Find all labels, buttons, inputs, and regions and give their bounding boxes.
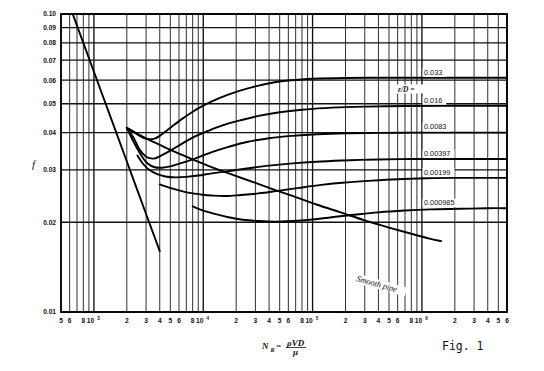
svg-text:10: 10 (305, 317, 313, 324)
curve-laminar (61, 0, 160, 251)
x-tick-exponent: 6 (425, 316, 428, 321)
x-tick-label: 2 (125, 317, 129, 324)
x-tick-label: 104 (196, 316, 209, 325)
svg-text:10: 10 (415, 317, 423, 324)
svg-text:8: 8 (191, 317, 195, 324)
x-tick-label: 4 (267, 317, 271, 324)
curve-eps_0.000985 (193, 206, 507, 221)
svg-text:10: 10 (196, 317, 204, 324)
svg-text:5: 5 (387, 317, 391, 324)
x-tick-label: 8 (409, 317, 413, 324)
roughness-label: 0.016 (424, 96, 442, 105)
curve-smooth_pipe (127, 128, 441, 241)
x-tick-label: 8 (300, 317, 304, 324)
svg-text:8: 8 (409, 317, 413, 324)
x-tick-label: 4 (377, 317, 381, 324)
y-tick-label: 0.07 (43, 57, 56, 64)
x-tick-label: 3 (363, 317, 367, 324)
y-tick-label: 0.02 (43, 219, 56, 226)
x-tick-label: 5 (59, 317, 63, 324)
x-axis-denominator: μ (292, 347, 298, 357)
svg-text:2: 2 (453, 317, 457, 324)
x-tick-label: 3 (144, 317, 148, 324)
y-tick-label: 0.05 (43, 100, 56, 107)
x-axis-title: N R = ρVD μ (261, 338, 306, 358)
svg-text:5: 5 (168, 317, 172, 324)
svg-text:2: 2 (234, 317, 238, 324)
x-tick-label: 6 (505, 317, 509, 324)
x-tick-label: 5 (497, 317, 501, 324)
svg-text:6: 6 (286, 317, 290, 324)
roughness-value-labels: 0.0330.0160.00830.003970.001990.000985 (423, 68, 459, 208)
epsilon-over-d-prefix: ε/D = (398, 85, 414, 94)
svg-text:3: 3 (363, 317, 367, 324)
svg-text:8: 8 (300, 317, 304, 324)
x-tick-label: 5 (168, 317, 172, 324)
y-axis-tick-labels: 0.100.090.080.070.060.050.040.030.020.01 (43, 10, 56, 315)
roughness-label: 0.000985 (424, 198, 454, 207)
x-tick-label: 8 (191, 317, 195, 324)
x-axis-subscript: R (270, 347, 275, 353)
svg-text:4: 4 (377, 317, 381, 324)
svg-text:3: 3 (472, 317, 476, 324)
svg-text:3: 3 (254, 317, 258, 324)
moody-chart-svg: 0.100.090.080.070.060.050.040.030.020.01… (0, 0, 544, 371)
x-tick-label: 4 (486, 317, 490, 324)
roughness-label: 0.0083 (424, 122, 446, 131)
svg-text:4: 4 (267, 317, 271, 324)
svg-text:5: 5 (497, 317, 501, 324)
x-tick-label: 2 (234, 317, 238, 324)
x-tick-label: 6 (286, 317, 290, 324)
svg-text:4: 4 (158, 317, 162, 324)
svg-text:6: 6 (68, 317, 72, 324)
y-axis-title: f (32, 158, 37, 170)
x-axis-symbol: N (261, 341, 269, 351)
x-tick-label: 3 (254, 317, 258, 324)
y-tick-label: 0.08 (43, 39, 56, 46)
svg-text:6: 6 (505, 317, 509, 324)
svg-text:2: 2 (125, 317, 129, 324)
y-tick-label: 0.04 (43, 129, 56, 136)
svg-text:4: 4 (486, 317, 490, 324)
svg-text:6: 6 (177, 317, 181, 324)
x-tick-label: 8 (81, 317, 85, 324)
x-tick-exponent: 3 (97, 316, 100, 321)
y-tick-label: 0.03 (43, 166, 56, 173)
svg-text:10: 10 (87, 317, 95, 324)
x-tick-label: 2 (453, 317, 457, 324)
x-tick-label: 5 (278, 317, 282, 324)
x-tick-exponent: 4 (206, 316, 209, 321)
smooth-pipe-annotation: Smooth pipe (355, 274, 398, 294)
y-tick-label: 0.06 (43, 77, 56, 84)
x-tick-label: 106 (415, 316, 428, 325)
x-tick-label: 6 (68, 317, 72, 324)
y-tick-label: 0.09 (43, 24, 56, 31)
svg-text:5: 5 (278, 317, 282, 324)
svg-text:5: 5 (59, 317, 63, 324)
svg-text:6: 6 (396, 317, 400, 324)
roughness-label: 0.00397 (424, 149, 450, 158)
x-tick-label: 4 (158, 317, 162, 324)
x-tick-label: 3 (472, 317, 476, 324)
x-tick-label: 2 (344, 317, 348, 324)
x-tick-label: 5 (387, 317, 391, 324)
x-tick-exponent: 5 (316, 316, 319, 321)
y-tick-label: 0.01 (43, 308, 56, 315)
y-tick-label: 0.10 (43, 10, 56, 17)
x-tick-label: 6 (177, 317, 181, 324)
x-axis-numerator: ρVD (286, 338, 305, 348)
x-tick-label: 105 (305, 316, 318, 325)
svg-text:8: 8 (81, 317, 85, 324)
x-tick-label: 6 (396, 317, 400, 324)
figure-caption: Fig. 1 (442, 339, 484, 353)
svg-text:2: 2 (344, 317, 348, 324)
x-axis-tick-labels: 56810323456810423456810523456810623456 (59, 316, 509, 325)
roughness-label: 0.033 (424, 68, 442, 77)
x-tick-label: 103 (87, 316, 100, 325)
roughness-label: 0.00199 (424, 168, 450, 177)
moody-diagram-figure: 0.100.090.080.070.060.050.040.030.020.01… (0, 0, 544, 371)
x-axis-equals: = (276, 341, 281, 351)
svg-text:3: 3 (144, 317, 148, 324)
